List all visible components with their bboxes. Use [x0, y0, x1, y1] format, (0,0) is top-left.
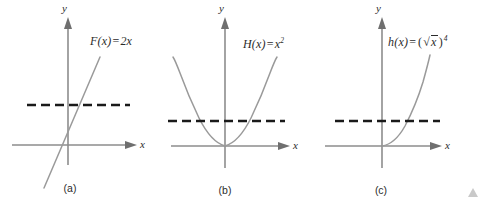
x-axis-label-b: x: [293, 139, 298, 151]
panel-c-plot: [325, 0, 488, 211]
radicand-c: x: [431, 35, 438, 49]
function-operator-c: =: [408, 35, 417, 49]
function-name-c: h(x): [388, 35, 408, 49]
x-axis-arrowhead-c: [430, 142, 442, 150]
y-axis-label-b: y: [219, 2, 224, 14]
function-label-a: F(x)=2x: [90, 34, 132, 49]
function-exponent-c: 4: [444, 34, 448, 43]
graph-panel-b: y x H(x)=x2 (b): [163, 0, 326, 211]
function-curve-c: [382, 55, 430, 146]
panel-caption-c: (c): [361, 184, 401, 196]
function-exponent-b: 2: [280, 36, 284, 45]
y-axis-label-c: y: [376, 2, 381, 14]
y-axis-label-a: y: [62, 2, 67, 14]
panel-caption-b: (b): [205, 184, 245, 196]
y-axis-arrowhead-c: [378, 17, 386, 29]
panel-caption-a: (a): [50, 182, 90, 194]
function-expression-a: 2x: [120, 34, 132, 48]
graph-panel-a: y x F(x)=2x (a): [0, 0, 163, 211]
triangle-watermark-icon: [468, 188, 478, 197]
function-label-c: h(x)=(√x)4: [388, 34, 448, 50]
panel-b-plot: [163, 0, 326, 211]
x-axis-arrowhead-b: [278, 142, 290, 150]
function-curve-a: [44, 57, 100, 188]
graph-panel-c: y x h(x)=(√x)4 (c): [325, 0, 488, 211]
x-axis-arrowhead-a: [125, 141, 137, 149]
function-operator-b: =: [266, 37, 275, 51]
y-axis-arrowhead-a: [64, 17, 72, 29]
y-axis-arrowhead-b: [221, 17, 229, 29]
x-axis-label-c: x: [445, 139, 450, 151]
radical-sign-c: √: [423, 35, 430, 49]
function-name-a: F(x): [90, 34, 111, 48]
x-axis-label-a: x: [140, 138, 145, 150]
horizontal-line-test-figure: y x F(x)=2x (a) y x H(x)=x2 (b): [0, 0, 488, 211]
function-label-b: H(x)=x2: [243, 36, 284, 52]
panel-a-plot: [0, 0, 163, 211]
function-name-b: H(x): [243, 37, 266, 51]
